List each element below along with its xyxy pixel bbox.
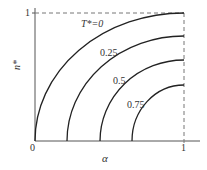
curve-label-t05: 0.5	[113, 76, 126, 86]
curve-t075	[132, 85, 184, 141]
curve-t0	[35, 13, 184, 141]
x-tick-label-1: 1	[181, 143, 186, 153]
x-axis-label: α	[102, 153, 108, 164]
x-tick-label-0: 0	[30, 143, 35, 153]
curve-label-t0: T*=0	[81, 19, 103, 29]
y-tick-label-1: 1	[25, 8, 30, 18]
curve-label-t075: 0.75	[127, 100, 145, 110]
curve-label-t025: 0.25	[100, 48, 118, 58]
curve-label-t0-text: T*=0	[81, 18, 103, 29]
y-axis-label: n*	[12, 60, 22, 70]
